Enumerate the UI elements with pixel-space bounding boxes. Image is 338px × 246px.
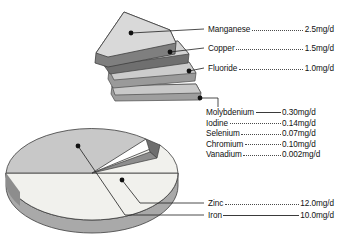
label-molybdenium-value: 0.30mg/d bbox=[282, 108, 334, 117]
label-iron-value: 10.0mg/d bbox=[300, 211, 334, 220]
label-fluoride-value: 1.0mg/d bbox=[305, 64, 334, 73]
label-iodine: Iodine 0.14mg/d bbox=[206, 119, 334, 128]
label-fluoride: Fluoride 1.0mg/d bbox=[208, 64, 334, 73]
label-copper-connector bbox=[236, 48, 303, 50]
label-selenium-connector bbox=[241, 133, 280, 135]
label-molybdenium-name: Molybdenium bbox=[206, 108, 254, 117]
label-selenium-name: Selenium bbox=[206, 129, 240, 138]
label-chromium-value: 0.10mg/d bbox=[282, 140, 334, 149]
label-vanadium-value: 0.002mg/d bbox=[282, 150, 334, 159]
label-manganese-connector bbox=[252, 29, 303, 31]
label-vanadium: Vanadium 0.002mg/d bbox=[206, 150, 334, 159]
label-copper-name: Copper bbox=[208, 44, 235, 53]
label-fluoride-name: Fluoride bbox=[208, 64, 237, 73]
label-copper: Copper 1.5mg/d bbox=[208, 44, 334, 53]
label-zinc-value: 12.0mg/d bbox=[300, 199, 334, 208]
label-chromium-connector bbox=[245, 143, 281, 145]
label-iodine-value: 0.14mg/d bbox=[282, 119, 334, 128]
label-zinc-name: Zinc bbox=[208, 199, 223, 208]
label-iodine-connector bbox=[230, 122, 281, 124]
label-manganese-value: 2.5mg/d bbox=[305, 25, 334, 34]
label-manganese: Manganese 2.5mg/d bbox=[208, 25, 334, 34]
label-selenium: Selenium 0.07mg/d bbox=[206, 129, 334, 138]
label-molybdenium: Molybdenium 0.30mg/d bbox=[206, 108, 334, 117]
label-zinc: Zinc 12.0mg/d bbox=[208, 199, 334, 208]
chart-labels: Manganese 2.5mg/d Copper 1.5mg/d Fluorid… bbox=[0, 0, 338, 246]
label-iron-name: Iron bbox=[208, 211, 222, 220]
label-chromium-name: Chromium bbox=[206, 140, 243, 149]
label-copper-value: 1.5mg/d bbox=[305, 44, 334, 53]
label-chromium: Chromium 0.10mg/d bbox=[206, 140, 334, 149]
label-vanadium-connector bbox=[243, 154, 280, 156]
chart-figure: Manganese 2.5mg/d Copper 1.5mg/d Fluorid… bbox=[0, 0, 338, 246]
label-manganese-name: Manganese bbox=[208, 25, 250, 34]
label-zinc-connector bbox=[225, 203, 299, 205]
label-iron: Iron 10.0mg/d bbox=[208, 211, 334, 220]
label-vanadium-name: Vanadium bbox=[206, 150, 242, 159]
label-fluoride-connector bbox=[239, 68, 304, 70]
label-molybdenium-connector bbox=[256, 111, 281, 113]
label-selenium-value: 0.07mg/d bbox=[282, 129, 334, 138]
label-iodine-name: Iodine bbox=[206, 119, 228, 128]
label-group-trace-minerals: Molybdenium 0.30mg/d Iodine 0.14mg/d Sel… bbox=[206, 108, 334, 161]
label-iron-connector bbox=[223, 214, 298, 216]
